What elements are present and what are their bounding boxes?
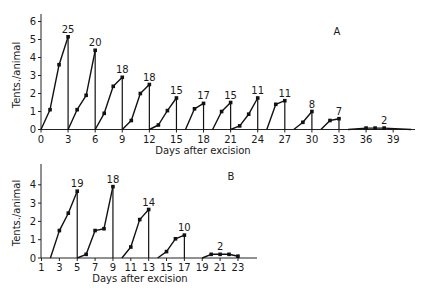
data-line — [122, 210, 149, 259]
chart-canvas: 0123456036912151821242730333639Tents./an… — [0, 0, 433, 296]
x-tick-label: 21 — [224, 134, 237, 145]
x-tick-label: 0 — [38, 134, 44, 145]
data-point — [328, 119, 332, 123]
count-label: 18 — [107, 174, 120, 185]
panel-b: 012341357911131517192123Tents./animalDay… — [11, 164, 257, 284]
data-point — [236, 254, 240, 258]
count-label: 18 — [143, 72, 156, 83]
panel-label: A — [334, 26, 341, 37]
data-point — [93, 229, 97, 233]
x-tick-label: 17 — [178, 262, 191, 273]
data-point — [84, 253, 88, 257]
y-tick-label: 0 — [30, 253, 36, 264]
count-label: 10 — [178, 222, 191, 233]
data-point — [220, 110, 224, 114]
data-line — [122, 85, 149, 130]
x-axis-label: Days after excision — [92, 273, 187, 284]
x-tick-label: 1 — [38, 262, 44, 273]
data-point — [174, 237, 178, 241]
data-point — [166, 109, 170, 113]
data-point — [193, 107, 197, 111]
panel-label: B — [228, 171, 235, 182]
data-point — [48, 108, 52, 112]
data-point — [227, 253, 231, 257]
x-tick-label: 19 — [196, 262, 209, 273]
count-label: 2 — [217, 241, 223, 252]
y-tick-label: 6 — [30, 16, 36, 27]
figure: 0123456036912151821242730333639Tents./an… — [0, 0, 433, 296]
data-line — [213, 103, 231, 130]
x-axis-label: Days after excision — [155, 145, 250, 156]
x-tick-label: 27 — [278, 134, 291, 145]
y-tick-label: 1 — [30, 106, 36, 117]
y-axis-label: Tents./animal — [11, 42, 22, 109]
count-label: 15 — [224, 90, 237, 101]
x-tick-label: 15 — [160, 262, 173, 273]
y-tick-label: 0 — [30, 124, 36, 135]
x-tick-label: 39 — [387, 134, 400, 145]
data-point — [238, 124, 242, 128]
count-label: 8 — [309, 99, 315, 110]
x-tick-label: 13 — [142, 262, 155, 273]
x-tick-label: 36 — [360, 134, 373, 145]
data-point — [138, 218, 142, 222]
x-tick-label: 12 — [143, 134, 156, 145]
data-point — [111, 85, 115, 89]
data-point — [157, 123, 161, 127]
data-point — [364, 126, 368, 130]
x-tick-label: 18 — [197, 134, 210, 145]
x-tick-label: 11 — [124, 262, 137, 273]
data-line — [68, 50, 95, 129]
count-label: 20 — [89, 37, 102, 48]
data-point — [84, 94, 88, 98]
data-line — [149, 98, 176, 130]
data-line — [77, 187, 113, 258]
count-label: 18 — [116, 64, 129, 75]
data-line — [50, 191, 77, 258]
y-tick-label: 3 — [30, 70, 36, 81]
data-point — [102, 227, 106, 231]
data-point — [382, 126, 386, 130]
data-point — [139, 92, 143, 96]
x-tick-label: 5 — [74, 262, 80, 273]
x-tick-label: 30 — [306, 134, 319, 145]
data-point — [66, 211, 70, 215]
x-tick-label: 7 — [92, 262, 98, 273]
data-point — [57, 63, 61, 67]
data-line — [158, 235, 185, 258]
data-point — [75, 108, 79, 112]
data-point — [102, 112, 106, 116]
y-tick-label: 2 — [30, 88, 36, 99]
count-label: 11 — [251, 85, 264, 96]
x-tick-label: 9 — [110, 262, 116, 273]
count-label: 11 — [278, 88, 291, 99]
y-tick-label: 5 — [30, 34, 36, 45]
data-point — [209, 253, 213, 257]
data-point — [218, 253, 222, 257]
data-point — [58, 229, 62, 233]
data-line — [231, 98, 258, 130]
x-tick-label: 23 — [232, 262, 245, 273]
data-point — [373, 126, 377, 130]
x-tick-label: 3 — [65, 134, 71, 145]
data-point — [274, 103, 278, 107]
x-tick-label: 3 — [56, 262, 62, 273]
y-tick-label: 3 — [30, 198, 36, 209]
y-tick-label: 4 — [30, 52, 36, 63]
y-tick-label: 1 — [30, 234, 36, 245]
y-tick-label: 4 — [30, 179, 36, 190]
x-tick-label: 9 — [119, 134, 125, 145]
data-point — [130, 119, 134, 123]
count-label: 25 — [62, 24, 75, 35]
y-tick-label: 2 — [30, 216, 36, 227]
x-tick-label: 15 — [170, 134, 183, 145]
data-point — [165, 250, 169, 254]
count-label: 2 — [381, 115, 387, 126]
data-point — [301, 121, 305, 125]
x-tick-label: 6 — [92, 134, 98, 145]
count-label: 15 — [170, 85, 183, 96]
count-label: 7 — [336, 106, 342, 117]
x-tick-label: 21 — [214, 262, 227, 273]
count-label: 14 — [142, 197, 155, 208]
count-label: 17 — [197, 90, 210, 101]
